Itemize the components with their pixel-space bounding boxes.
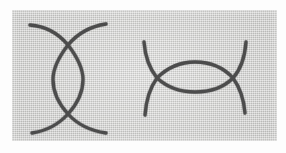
horizontal-bigon-bottom-stroke-shadow [145, 62, 245, 115]
vertical-bigon-left-arc [30, 25, 83, 133]
horizontal-bigon-lower-arc [145, 62, 245, 115]
figure-root: Two bigon curve configurations [0, 0, 286, 153]
diagram-svg [0, 0, 286, 153]
horizontal-bigon-top-stroke-shadow [144, 42, 246, 92]
vertical-bigon-figure [30, 24, 106, 133]
vertical-bigon-left-stroke-shadow [30, 25, 83, 133]
horizontal-bigon-figure [144, 42, 246, 115]
horizontal-bigon-upper-arc [144, 42, 246, 92]
